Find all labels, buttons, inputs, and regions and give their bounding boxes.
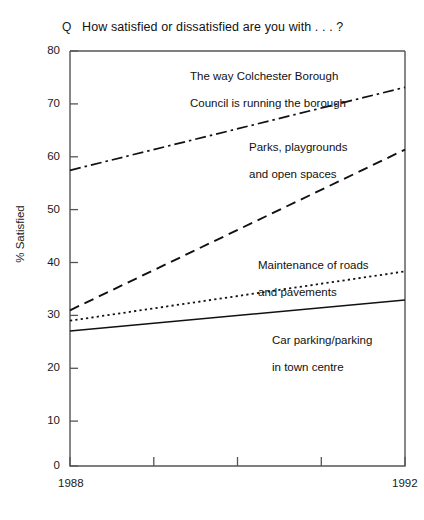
series-label-line-1: Car parking/parking xyxy=(272,334,372,348)
y-axis-ticks xyxy=(70,51,78,466)
y-tick-label-0: 0 xyxy=(18,459,60,471)
series-label-line-1: The way Colchester Borough xyxy=(190,70,346,84)
x-axis-ticks xyxy=(70,457,405,466)
line-chart: % Satisfied xyxy=(0,0,424,520)
x-tick-label-1992: 1992 xyxy=(392,477,418,489)
y-tick-label-10: 10 xyxy=(18,414,60,426)
series-label-car-parking: Car parking/parking in town centre xyxy=(272,320,372,388)
series-label-maintenance-roads: Maintenance of roads and pavements xyxy=(258,245,369,313)
y-tick-label-80: 80 xyxy=(18,44,60,56)
series-label-line-1: Parks, playgrounds xyxy=(249,141,347,155)
y-tick-label-30: 30 xyxy=(18,308,60,320)
y-tick-label-40: 40 xyxy=(18,256,60,268)
y-tick-label-60: 60 xyxy=(18,150,60,162)
series-label-parks-playgrounds: Parks, playgrounds and open spaces xyxy=(249,127,347,195)
series-label-line-2: and pavements xyxy=(258,286,369,300)
y-tick-label-50: 50 xyxy=(18,203,60,215)
series-label-line-2: and open spaces xyxy=(249,168,347,182)
series-label-colchester-council: The way Colchester Borough Council is ru… xyxy=(190,56,346,124)
series-label-line-1: Maintenance of roads xyxy=(258,259,369,273)
y-tick-label-20: 20 xyxy=(18,361,60,373)
series-label-line-2: Council is running the borough xyxy=(190,97,346,111)
series-label-line-2: in town centre xyxy=(272,361,372,375)
x-tick-label-1988: 1988 xyxy=(58,477,84,489)
y-tick-label-70: 70 xyxy=(18,97,60,109)
